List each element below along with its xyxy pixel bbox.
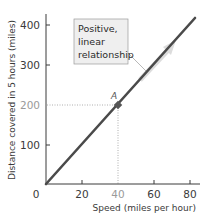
origin-label: 0 xyxy=(33,188,40,200)
x-axis-title: Speed (miles per hour) xyxy=(93,203,196,213)
callout-line-1: Positive, xyxy=(78,23,118,34)
point-a-label: A xyxy=(110,91,117,101)
x-tick-80: 80 xyxy=(183,188,196,200)
callout-line-3: relationship xyxy=(78,49,134,60)
y-tick-300: 300 xyxy=(20,59,40,71)
x-tick-60: 60 xyxy=(147,188,160,200)
callout-line-2: linear xyxy=(78,36,105,47)
chart: Distance covered in 5 hours (miles) 400 … xyxy=(0,0,210,221)
x-tick-20: 20 xyxy=(75,188,88,200)
x-ticks xyxy=(82,180,190,184)
x-tick-40: 40 xyxy=(111,188,124,200)
y-tick-100: 100 xyxy=(20,139,40,151)
y-tick-200: 200 xyxy=(20,99,40,111)
callout-box: Positive, linear relationship xyxy=(74,19,134,64)
y-ticks xyxy=(46,25,50,145)
y-axis-title: Distance covered in 5 hours (miles) xyxy=(7,20,17,180)
y-tick-400: 400 xyxy=(20,19,40,31)
